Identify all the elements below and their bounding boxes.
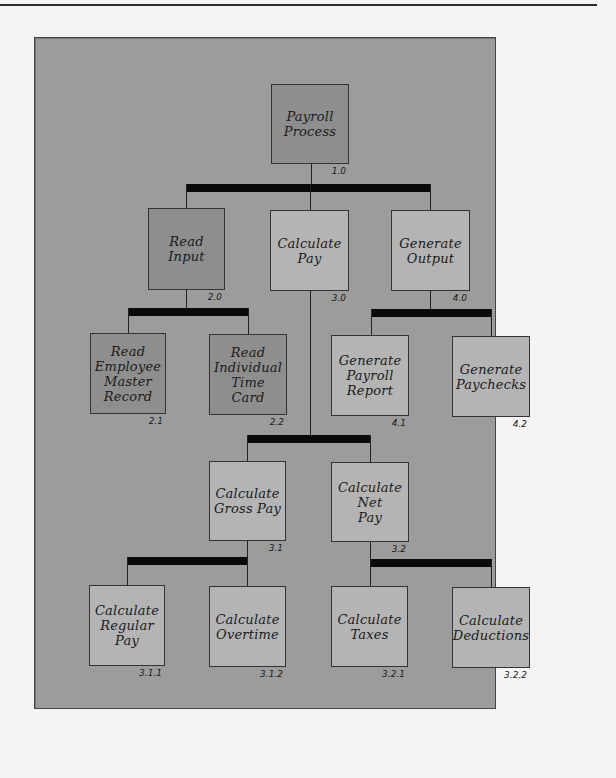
node-label: Read Individual Time Card xyxy=(214,345,282,405)
connector-3.2-down xyxy=(370,541,371,560)
node-calculate-pay: Calculate Pay 3.0 xyxy=(270,210,349,291)
connector-to-4.1 xyxy=(371,309,372,335)
bar-level-1 xyxy=(186,184,431,192)
connector-to-3.2 xyxy=(370,435,371,462)
node-id: 3.1 xyxy=(269,543,283,553)
connector-to-2.0 xyxy=(186,184,187,209)
node-label: Calculate Taxes xyxy=(337,612,401,642)
connector-3.1-down xyxy=(247,540,248,558)
node-calculate-regular-pay: Calculate Regular Pay 3.1.1 xyxy=(89,585,165,666)
node-label: Payroll Process xyxy=(284,109,337,139)
node-id: 3.2.1 xyxy=(382,669,405,679)
connector-to-4.0 xyxy=(430,184,431,210)
node-id: 2.2 xyxy=(270,417,284,427)
connector-to-3.1.2 xyxy=(247,557,248,586)
connector-2.0-down xyxy=(186,289,187,309)
node-id: 2.1 xyxy=(149,416,163,426)
node-calculate-taxes: Calculate Taxes 3.2.1 xyxy=(331,586,408,667)
connector-to-3.1 xyxy=(247,435,248,461)
bar-3.0-children xyxy=(247,435,371,443)
node-calculate-deductions: Calculate Deductions 3.2.2 xyxy=(452,587,530,668)
node-label: Calculate Overtime xyxy=(215,612,279,642)
bar-4.0-children xyxy=(371,309,492,317)
bar-2.0-children xyxy=(128,308,249,316)
node-id: 3.0 xyxy=(332,293,346,303)
node-id: 4.2 xyxy=(513,419,527,429)
connector-3.0-down xyxy=(310,290,311,436)
node-read-employee-master-record: Read Employee Master Record 2.1 xyxy=(90,333,166,414)
connector-1.0-down xyxy=(311,163,312,184)
node-id: 4.1 xyxy=(392,418,406,428)
node-calculate-overtime: Calculate Overtime 3.1.2 xyxy=(209,586,286,667)
node-generate-paychecks: Generate Paychecks 4.2 xyxy=(452,336,530,417)
node-read-input: Read Input 2.0 xyxy=(148,208,225,290)
connector-to-3.1.1 xyxy=(127,557,128,585)
node-label: Calculate Gross Pay xyxy=(214,486,281,516)
node-label: Generate Payroll Report xyxy=(339,353,402,398)
node-label: Generate Paychecks xyxy=(456,362,526,392)
node-id: 1.0 xyxy=(332,166,346,176)
connector-to-4.2 xyxy=(491,309,492,336)
connector-to-3.2.1 xyxy=(370,559,371,586)
connector-4.0-down xyxy=(430,290,431,310)
node-calculate-gross-pay: Calculate Gross Pay 3.1 xyxy=(209,461,286,541)
bar-3.1-children xyxy=(127,557,248,565)
node-read-individual-time-card: Read Individual Time Card 2.2 xyxy=(209,334,287,415)
node-id: 3.2 xyxy=(392,544,406,554)
connector-to-3.2.2 xyxy=(491,559,492,587)
node-label: Read Employee Master Record xyxy=(95,344,161,404)
node-label: Generate Output xyxy=(399,236,462,266)
node-id: 3.1.1 xyxy=(139,668,162,678)
node-id: 3.1.2 xyxy=(260,669,283,679)
node-id: 3.2.2 xyxy=(504,670,527,680)
node-label: Read Input xyxy=(168,234,204,264)
node-generate-payroll-report: Generate Payroll Report 4.1 xyxy=(331,335,409,416)
top-rule xyxy=(0,4,597,6)
node-label: Calculate Regular Pay xyxy=(95,603,159,648)
node-label: Calculate Deductions xyxy=(453,613,529,643)
connector-to-3.0 xyxy=(310,184,311,210)
bar-3.2-children xyxy=(370,559,492,567)
connector-to-2.1 xyxy=(128,308,129,333)
node-id: 2.0 xyxy=(208,292,222,302)
node-label: Calculate Pay xyxy=(277,236,341,266)
node-label: Calculate Net Pay xyxy=(338,480,402,525)
connector-to-2.2 xyxy=(248,308,249,334)
node-calculate-net-pay: Calculate Net Pay 3.2 xyxy=(331,462,409,542)
node-payroll-process: Payroll Process 1.0 xyxy=(271,84,349,164)
node-id: 4.0 xyxy=(453,293,467,303)
node-generate-output: Generate Output 4.0 xyxy=(391,210,470,291)
